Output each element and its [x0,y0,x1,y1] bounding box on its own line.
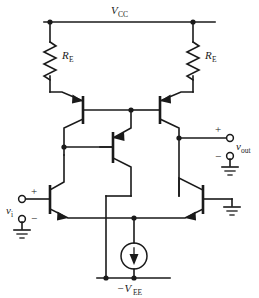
vout-plus-sign: + [215,123,221,135]
vee-rail [97,275,170,280]
re-right-label: R [204,49,212,61]
ground-input [14,230,30,238]
re-left-label-sub: E [69,55,74,64]
vin-label-sub: i [11,210,13,219]
transistor-q4-npn [26,155,134,221]
ground-right-lower [224,207,240,215]
vee-label: −V [117,282,132,294]
vcc-rail [44,19,215,24]
q5-emitter-arrow [185,212,196,221]
node-q1-collector [61,144,66,149]
vin-terminals [19,196,26,229]
re-right-label-sub: E [212,55,217,64]
re-left-label: R [61,49,69,61]
vout-minus-sign: − [215,150,221,162]
q4-emitter-arrow [57,212,68,221]
vout-plus-terminal[interactable] [227,135,234,142]
vee-label-sub: EE [133,288,143,297]
circuit-schematic: V CC R E R E [0,0,259,298]
node-vout [176,135,181,140]
resistor-re-right [187,22,199,92]
figure-canvas: V CC R E R E [0,0,259,298]
resistor-re-left [44,22,56,92]
current-source [121,218,147,278]
vout-tap [176,135,233,166]
node-vee-left [103,275,108,280]
q1-emitter-arrow [72,95,83,104]
current-source-arrow [130,254,139,265]
vin-plus-sign: + [31,185,37,197]
ground-output [222,167,238,175]
vout-label-sub: out [241,146,252,155]
vin-plus-terminal[interactable] [19,196,26,203]
node-vee-right [131,275,136,280]
vin-minus-sign: − [31,212,37,224]
transistor-q3-pnp [100,110,131,196]
transistor-q5-npn [134,178,232,221]
vcc-label-sub: CC [118,10,128,19]
q2-emitter-arrow [160,95,171,104]
